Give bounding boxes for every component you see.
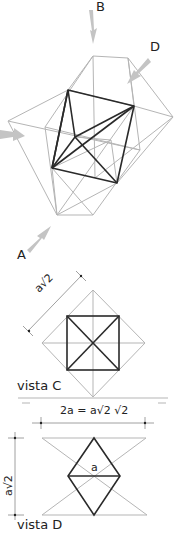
label-a: A: [17, 247, 26, 262]
octahedron-diagram: [0, 0, 176, 537]
vista-d-view: [8, 417, 154, 520]
vista-d-edge-label: a: [91, 461, 98, 474]
vista-d-height-dimension: a√2: [2, 475, 15, 496]
vista-d-width-formula: 2a = a√2 √2: [60, 404, 128, 417]
label-b: B: [96, 0, 105, 14]
vista-d-label: vista D: [17, 517, 62, 532]
vista-c-label: vista C: [17, 378, 61, 393]
arrow-a-icon: [27, 226, 51, 253]
perspective-view: [0, 10, 173, 253]
arrow-b-icon: [89, 10, 97, 44]
label-d: D: [150, 39, 160, 54]
